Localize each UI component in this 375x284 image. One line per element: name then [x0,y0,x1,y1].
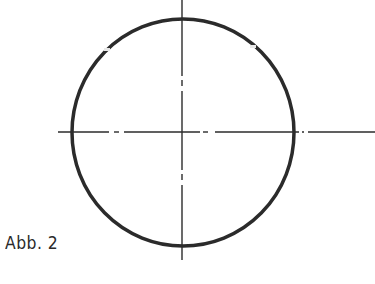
figure-caption: Abb. 2 [5,233,58,253]
scan-artifacts [104,45,256,51]
